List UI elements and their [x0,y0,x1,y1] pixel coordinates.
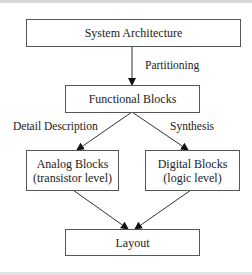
analog-blocks-subtitle: (transistor level) [33,171,112,185]
system-architecture-label: System Architecture [85,26,183,40]
functional-blocks-label: Functional Blocks [89,92,177,106]
system-architecture-node: System Architecture [26,19,241,47]
layout-node: Layout [65,229,200,256]
analog-blocks-node: Analog Blocks (transistor level) [26,150,119,191]
digital-blocks-title: Digital Blocks [158,157,228,171]
digital-blocks-node: Digital Blocks (logic level) [145,150,240,191]
digital-blocks-subtitle: (logic level) [163,171,221,185]
functional-blocks-node: Functional Blocks [65,85,200,113]
partitioning-label: Partitioning [145,59,199,71]
synthesis-label: Synthesis [170,120,214,132]
analog-blocks-title: Analog Blocks [37,157,109,171]
digital-to-layout-arrow [135,190,191,229]
analog-to-layout-arrow [73,190,128,229]
layout-label: Layout [116,236,150,250]
detail-description-label: Detail Description [13,120,98,132]
